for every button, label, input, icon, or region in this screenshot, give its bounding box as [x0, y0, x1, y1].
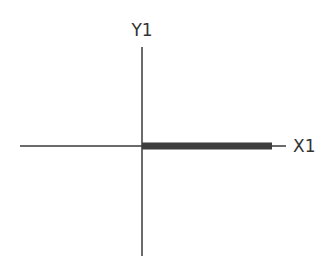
x1-vector-bar [142, 143, 272, 150]
y-axis-label: Y1 [131, 22, 152, 39]
x-axis-label: X1 [293, 138, 315, 155]
diagram-canvas: Y1 X1 [0, 0, 327, 268]
axes-diagram [0, 0, 327, 268]
